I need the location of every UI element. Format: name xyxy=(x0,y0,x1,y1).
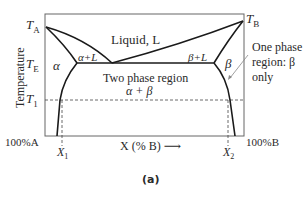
beta-region-label: β xyxy=(224,56,232,71)
annotation-line-1: One phase xyxy=(252,40,302,54)
x2-label: X2 xyxy=(222,145,234,161)
annotation-line-2: region: β xyxy=(252,55,295,69)
two-phase-region-label: Two phase region xyxy=(103,71,188,85)
annotation-line-3: only xyxy=(252,70,273,84)
solvus-right-curve xyxy=(214,63,235,136)
figure-caption: (a) xyxy=(142,173,159,186)
left-end-label: 100%A xyxy=(5,136,39,148)
liquid-region-label: Liquid, L xyxy=(111,32,160,47)
t1-label: T1 xyxy=(26,91,38,109)
x-axis-label: X (% B) ⟶ xyxy=(120,139,181,153)
solvus-left-curve xyxy=(57,63,77,136)
ta-label: TA xyxy=(26,17,40,35)
beta-plus-liquid-label: β+L xyxy=(187,51,207,63)
alpha-plus-liquid-label: α+L xyxy=(78,51,97,63)
tb-label: TB xyxy=(246,11,259,29)
right-end-label: 100%B xyxy=(246,136,279,148)
y-axis-label: Temperature xyxy=(13,48,27,108)
te-label: TE xyxy=(26,56,39,74)
two-phase-composition-label: α + β xyxy=(126,84,152,98)
annotation-arrow-line xyxy=(230,55,248,78)
x1-label: X1 xyxy=(56,145,68,161)
phase-diagram: Temperature TA TB TE T1 Liquid, L α+L β+… xyxy=(0,0,306,197)
alpha-region-label: α xyxy=(53,58,61,73)
